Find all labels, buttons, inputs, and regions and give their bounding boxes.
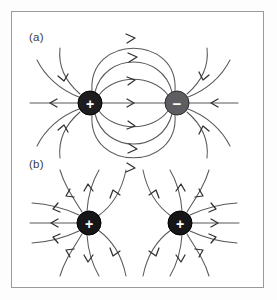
panel-label-a: (a) (29, 31, 44, 43)
panel-label-b: (b) (29, 158, 44, 170)
figure-frame (11, 11, 264, 288)
figure-root: + − (0, 0, 277, 300)
